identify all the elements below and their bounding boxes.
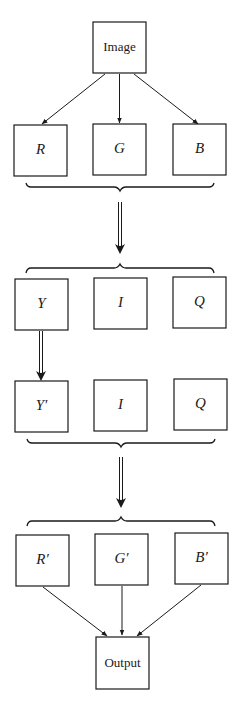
r-label: R bbox=[35, 141, 45, 157]
q-label-2: Q bbox=[195, 395, 206, 411]
i-node-2: I bbox=[94, 380, 147, 431]
b-prime-label: B′ bbox=[195, 549, 208, 565]
arrow-image-to-r bbox=[42, 74, 105, 124]
q-label: Q bbox=[194, 293, 205, 309]
b-label: B bbox=[195, 140, 204, 156]
brace-rgb bbox=[26, 183, 214, 191]
q-node-2: Q bbox=[174, 379, 227, 430]
i-label: I bbox=[117, 294, 124, 310]
y-prime-node: Y′ bbox=[15, 381, 68, 432]
g-prime-node: G′ bbox=[95, 534, 148, 585]
r-node: R bbox=[14, 125, 67, 176]
rgb-row: R G B bbox=[14, 124, 226, 176]
g-label: G bbox=[114, 140, 125, 156]
i-label-2: I bbox=[117, 396, 124, 412]
r-prime-label: R′ bbox=[35, 551, 49, 567]
y-node: Y bbox=[15, 279, 68, 330]
r-prime-node: R′ bbox=[16, 535, 69, 586]
i-node: I bbox=[94, 278, 147, 329]
y-prime-label: Y′ bbox=[36, 397, 48, 413]
q-node: Q bbox=[173, 277, 226, 328]
arrow-b-prime-to-output bbox=[137, 585, 201, 636]
output-label: Output bbox=[104, 655, 141, 670]
brace-rgb-prime bbox=[27, 517, 215, 526]
yiq-row: Y I Q bbox=[15, 277, 226, 330]
double-arrow-rgb-to-yiq bbox=[115, 202, 125, 254]
b-prime-node: B′ bbox=[175, 533, 228, 584]
g-node: G bbox=[93, 124, 146, 175]
double-arrow-y-to-y-prime bbox=[36, 331, 46, 381]
yiq-processing-diagram: Image R G B Y bbox=[0, 0, 243, 703]
y-prime-iq-row: Y′ I Q bbox=[15, 379, 227, 432]
arrow-r-prime-to-output bbox=[43, 587, 107, 636]
rgb-prime-row: R′ G′ B′ bbox=[16, 533, 228, 586]
double-arrow-yiq-to-rgb-prime bbox=[116, 457, 126, 508]
image-label: Image bbox=[103, 39, 136, 54]
split-arrows bbox=[42, 74, 198, 124]
arrow-image-to-b bbox=[134, 74, 198, 124]
b-node: B bbox=[173, 124, 226, 175]
output-node: Output bbox=[96, 637, 149, 689]
image-node: Image bbox=[93, 22, 146, 73]
brace-yiq bbox=[26, 264, 214, 273]
brace-y-prime-iq bbox=[27, 439, 215, 447]
g-prime-label: G′ bbox=[114, 550, 129, 566]
merge-arrows bbox=[43, 585, 201, 636]
